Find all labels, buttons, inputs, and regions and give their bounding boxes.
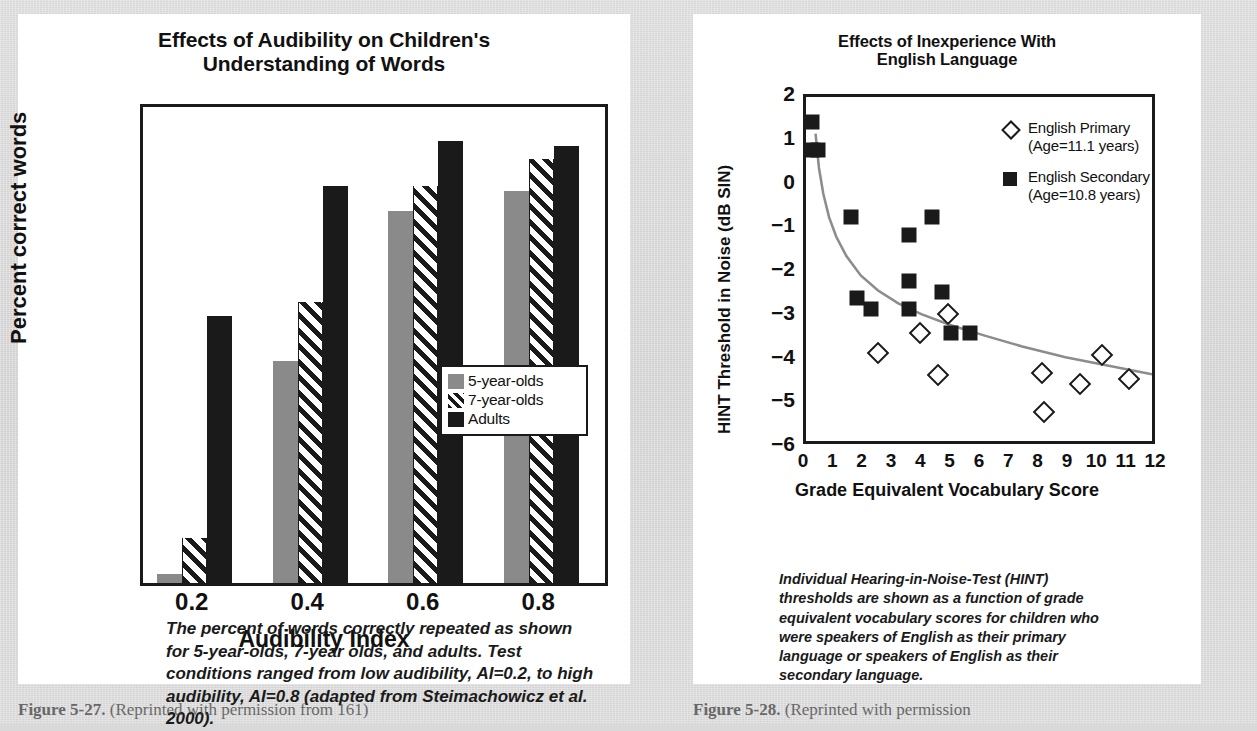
filled-square-point [805,115,820,130]
legend-label-english-primary: English Primary (Age=11.1 years) [1028,119,1139,155]
black-square-icon [448,412,464,427]
filled-square-point [901,273,916,288]
left-chart-title-line1: Effects of Audibility on Children's [18,28,630,52]
legend-item-5-year-olds: 5-year-olds [448,372,580,390]
left-chart-title: Effects of Audibility on Children's Unde… [18,14,630,75]
hatched-square-icon [448,393,464,408]
filled-square-icon [1002,170,1019,187]
bar-0.6-adults [438,141,463,583]
right-y-tick--4: −4 [771,345,795,369]
legend-item-english-secondary: English Secondary (Age=10.8 years) [1002,168,1177,204]
right-x-axis-label: Grade Equivalent Vocabulary Score [693,480,1201,501]
legend-label-7-year-olds: 7-year-olds [468,391,543,409]
right-y-tick--3: −3 [771,301,795,325]
legend-item-adults: Adults [448,410,580,428]
right-chart-title-line2: English Language [693,50,1201,68]
filled-square-point [944,326,959,341]
gray-square-icon [448,374,464,389]
filled-square-point [925,210,940,225]
open-diamond-icon [1002,121,1019,138]
right-x-tick-8: 8 [1032,450,1043,472]
right-x-tick-11: 11 [1116,450,1136,472]
filled-square-point [863,302,878,317]
bar-chart-plot-area: 5-year-olds 7-year-olds Adults [140,104,608,586]
filled-square-point [811,143,826,158]
legend-item-7-year-olds: 7-year-olds [448,391,580,409]
filled-square-point [901,302,916,317]
left-chart-title-line2: Understanding of Words [18,52,630,76]
right-x-tick-0: 0 [798,450,809,472]
bar-0.2-adults [207,316,232,583]
right-x-tick-10: 10 [1086,450,1107,472]
right-y-tick--6: −6 [771,432,795,456]
right-y-tick--1: −1 [771,213,795,237]
bar-0.6-7-year-olds [413,186,438,583]
legend-label-english-primary-line2: (Age=11.1 years) [1028,137,1139,154]
legend-item-english-primary: English Primary (Age=11.1 years) [1002,119,1177,155]
right-x-tick-6: 6 [974,450,985,472]
filled-square-point [963,326,978,341]
right-x-tick-2: 2 [856,450,867,472]
bar-0.2-5-year-olds [157,574,182,583]
right-y-tick-1: 1 [783,126,795,150]
bar-0.6-5-year-olds [388,211,413,583]
right-y-tick-2: 2 [783,82,795,106]
right-x-tick-7: 7 [1003,450,1014,472]
left-y-axis-label: Percent correct words [6,112,32,344]
bar-chart-legend: 5-year-olds 7-year-olds Adults [440,365,588,436]
right-figure-panel: Effects of Inexperience With English Lan… [693,14,1201,684]
legend-label-english-primary-line1: English Primary [1028,119,1130,136]
figure-number-right: Figure 5-28. [693,700,781,719]
figure-number-left: Figure 5-27. [18,700,106,719]
scatter-plot-area: English Primary (Age=11.1 years) English… [803,94,1155,444]
figure-source-left: (Reprinted with permission from 161) [110,700,369,719]
right-x-tick-5: 5 [944,450,955,472]
left-x-tick-0.8: 0.8 [522,588,555,616]
right-y-tick-0: 0 [783,170,795,194]
legend-label-english-secondary: English Secondary (Age=10.8 years) [1028,168,1150,204]
bar-0.4-7-year-olds [298,302,323,583]
right-y-tick--2: −2 [771,257,795,281]
left-x-tick-0.6: 0.6 [406,588,439,616]
left-x-tick-0.4: 0.4 [291,588,324,616]
right-x-tick-4: 4 [915,450,926,472]
right-chart-title-line1: Effects of Inexperience With [693,32,1201,50]
bar-0.2-7-year-olds [182,538,207,583]
right-panel-caption: Individual Hearing-in-Noise-Test (HINT) … [779,570,1109,686]
scatter-chart-legend: English Primary (Age=11.1 years) English… [1002,119,1177,217]
right-y-tick--5: −5 [771,388,795,412]
right-x-tick-9: 9 [1062,450,1073,472]
bar-0.4-5-year-olds [273,361,298,583]
figure-caption-right: Figure 5-28. (Reprinted with permission [693,700,971,720]
filled-square-point [844,210,859,225]
right-x-tick-3: 3 [886,450,897,472]
right-y-axis-label: HINT Threshold in Noise (dB SIN) [715,165,735,434]
legend-label-english-secondary-line1: English Secondary [1028,168,1150,185]
left-x-tick-0.2: 0.2 [175,588,208,616]
right-x-tick-1: 1 [827,450,838,472]
figure-source-right: (Reprinted with permission [785,700,971,719]
figure-caption-left: Figure 5-27. (Reprinted with permission … [18,700,369,720]
filled-square-point [901,227,916,242]
filled-square-point [935,284,950,299]
legend-label-5-year-olds: 5-year-olds [468,372,543,390]
left-figure-panel: Effects of Audibility on Children's Unde… [18,14,630,684]
legend-label-english-secondary-line2: (Age=10.8 years) [1028,186,1140,203]
bar-0.4-adults [323,186,348,583]
right-chart-title: Effects of Inexperience With English Lan… [693,14,1201,69]
legend-label-adults: Adults [468,410,510,428]
right-x-tick-12: 12 [1144,450,1165,472]
